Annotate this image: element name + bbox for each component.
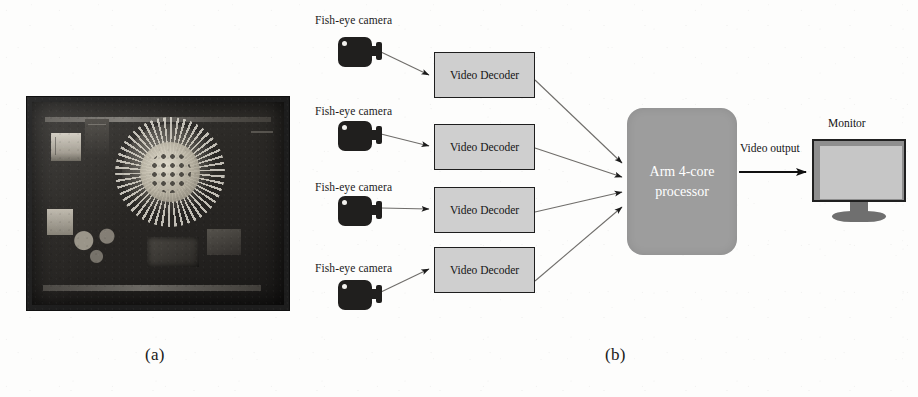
camera-lens-front [376,285,382,303]
monitor-icon [812,139,906,224]
arm-processor-block: Arm 4-core processor [627,108,737,255]
camera-3-label: Fish-eye camera [315,181,392,193]
wire-camera-2-to-decoder-2 [381,134,429,146]
monitor-base [832,211,886,222]
camera-lens-front [376,201,382,219]
processor-label-line1: Arm 4-core [650,162,715,181]
camera-lens-front [376,126,382,144]
wire-decoder-4-to-processor [535,207,622,281]
wire-decoder-2-to-processor [535,148,622,177]
wire-camera-1-to-decoder-1 [381,52,429,75]
panel-b-diagram: Fish-eye camera Fish-eye camera Fish-eye… [0,0,918,397]
video-decoder-3: Video Decoder [434,187,535,233]
camera-lens-front [376,42,382,60]
camera-indicator-dot [342,284,347,289]
caption-a: (a) [145,345,165,365]
video-output-label: Video output [740,142,800,154]
wire-camera-3-to-decoder-3 [381,208,429,209]
camera-indicator-dot [342,41,347,46]
fish-eye-camera-4-icon [338,280,382,310]
fish-eye-camera-2-icon [338,121,382,151]
caption-b: (b) [605,345,626,365]
wire-decoder-1-to-processor [535,80,622,163]
video-decoder-2: Video Decoder [434,124,535,170]
fish-eye-camera-1-icon [338,37,382,67]
monitor-label: Monitor [828,117,866,129]
monitor-bezel [812,139,906,202]
camera-1-label: Fish-eye camera [315,14,392,26]
monitor-screen [820,146,902,199]
figure-container: Fish-eye camera Fish-eye camera Fish-eye… [0,0,918,397]
wire-decoder-3-to-processor [535,192,622,212]
fish-eye-camera-3-icon [338,196,382,226]
processor-label-line2: processor [655,182,709,201]
video-decoder-4: Video Decoder [434,247,535,293]
video-decoder-1: Video Decoder [434,52,535,98]
camera-2-label: Fish-eye camera [315,105,392,117]
camera-4-label: Fish-eye camera [315,262,392,274]
camera-indicator-dot [342,200,347,205]
camera-indicator-dot [342,125,347,130]
